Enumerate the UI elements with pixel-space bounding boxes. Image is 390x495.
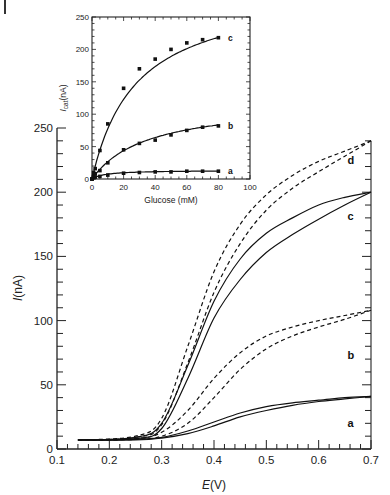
- inset-data-point-b: [201, 125, 205, 129]
- inset-data-point-a: [106, 173, 110, 177]
- inset-curve-label-b: b: [228, 121, 233, 131]
- main-y-tick-label: 50: [40, 379, 53, 391]
- main-x-axis-title: E(V): [202, 478, 226, 492]
- inset-data-point-b: [185, 129, 189, 133]
- main-x-tick-label: 0.5: [258, 454, 274, 466]
- inset-data-point-c: [98, 149, 102, 153]
- inset-plot: 050100150200250020406080100 abc Glucose …: [58, 13, 257, 205]
- inset-curve-label-c: c: [228, 33, 233, 43]
- inset-data-point-c: [153, 57, 157, 61]
- inset-data-point-a: [217, 169, 221, 173]
- main-x-tick-label: 0.6: [311, 454, 327, 466]
- inset-data-point-b: [98, 169, 102, 173]
- main-y-axis-title: I(nA): [11, 275, 25, 301]
- inset-data-point-a: [201, 169, 205, 173]
- main-curve-label-d: d: [347, 154, 354, 166]
- cv-curve-a-forward: [78, 396, 371, 440]
- inset-y-axis-title: Icat(nA): [58, 84, 69, 111]
- main-x-tick-label: 0.1: [49, 454, 65, 466]
- inset-data-point-b: [217, 124, 221, 128]
- cv-curve-c-forward: [78, 192, 371, 440]
- inset-data-point-a: [122, 171, 126, 175]
- inset-y-tick-label: 50: [80, 143, 89, 152]
- main-y-tick-label: 100: [34, 315, 53, 327]
- inset-data-point-c: [92, 171, 96, 175]
- inset-data-point-a: [169, 170, 173, 174]
- inset-data-point-c: [93, 167, 97, 171]
- chart: 0501001502002500.10.20.30.40.50.60.7 abc…: [0, 0, 390, 495]
- inset-data-point-c: [122, 87, 126, 91]
- main-y-tick-label: 200: [34, 186, 53, 198]
- main-curve-label-c: c: [347, 210, 353, 222]
- inset-data-point-a: [138, 171, 142, 175]
- inset-curve-label-a: a: [228, 166, 233, 176]
- inset-y-tick-label: 250: [76, 13, 90, 22]
- inset-data-point-c: [138, 67, 142, 71]
- inset-y-tick-label: 100: [76, 110, 90, 119]
- cv-curve-b-reverse: [78, 310, 371, 440]
- inset-data-point-c: [90, 177, 94, 181]
- inset-data-point-c: [169, 48, 173, 52]
- main-x-tick-label: 0.7: [363, 454, 379, 466]
- inset-x-tick-label: 20: [119, 183, 128, 192]
- main-x-tick-label: 0.2: [101, 454, 117, 466]
- inset-data-point-c: [106, 122, 110, 126]
- inset-x-tick-label: 60: [182, 183, 191, 192]
- inset-background: [92, 17, 250, 179]
- inset-data-point-b: [138, 142, 142, 146]
- cv-curve-c-reverse: [78, 192, 371, 440]
- main-x-tick-label: 0.3: [154, 454, 170, 466]
- inset-data-point-a: [153, 170, 157, 174]
- inset-data-point-a: [185, 169, 189, 173]
- inset-x-tick-label: 0: [90, 183, 95, 192]
- main-y-tick-label: 250: [34, 122, 53, 134]
- inset-y-tick-label: 150: [76, 78, 90, 87]
- main-x-tick-label: 0.4: [206, 454, 223, 466]
- inset-data-point-c: [185, 41, 189, 45]
- inset-data-point-b: [122, 148, 126, 152]
- inset-data-point-a: [98, 175, 102, 179]
- main-y-tick-label: 150: [34, 250, 53, 262]
- inset-data-point-c: [217, 36, 221, 40]
- inset-x-tick-label: 80: [214, 183, 223, 192]
- main-curve-label-a: a: [347, 417, 354, 429]
- inset-data-point-c: [201, 38, 205, 42]
- inset-y-tick-label: 200: [76, 45, 90, 54]
- inset-x-axis-title: Glucose (mM): [144, 195, 198, 205]
- inset-x-tick-label: 100: [243, 183, 257, 192]
- cv-curve-b-forward: [78, 310, 371, 440]
- inset-data-point-b: [169, 133, 173, 137]
- page-edge-mark: [4, 0, 6, 14]
- inset-data-point-b: [106, 161, 110, 165]
- inset-x-tick-label: 40: [151, 183, 160, 192]
- main-curve-label-b: b: [347, 349, 354, 361]
- inset-data-point-b: [153, 138, 157, 142]
